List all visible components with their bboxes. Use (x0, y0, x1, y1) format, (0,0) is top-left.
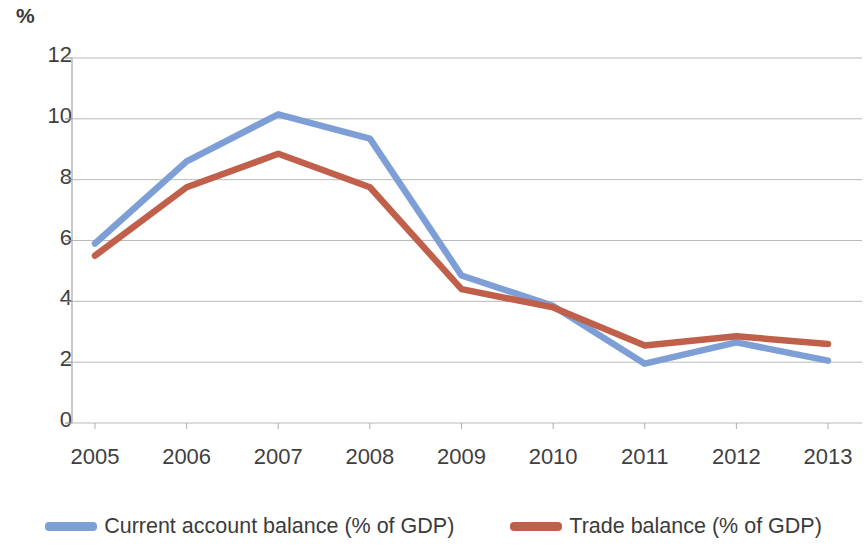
legend-label: Current account balance (% of GDP) (104, 514, 454, 539)
x-tick-label: 2008 (325, 444, 415, 470)
legend-swatch-icon (45, 522, 97, 531)
legend-label: Trade balance (% of GDP) (569, 514, 822, 539)
x-tick-label: 2013 (783, 444, 867, 470)
x-tick-label: 2006 (142, 444, 232, 470)
chart-legend: Current account balance (% of GDP)Trade … (0, 506, 867, 546)
y-axis-tick-marks (65, 58, 72, 423)
x-tick-label: 2005 (50, 444, 140, 470)
x-tick-label: 2009 (417, 444, 507, 470)
series-line (95, 154, 828, 346)
x-axis-tick-marks (95, 423, 828, 429)
x-tick-label: 2012 (691, 444, 781, 470)
x-tick-label: 2007 (233, 444, 323, 470)
series-lines (95, 114, 828, 363)
x-tick-label: 2011 (600, 444, 690, 470)
legend-item[interactable]: Trade balance (% of GDP) (510, 514, 822, 539)
legend-item[interactable]: Current account balance (% of GDP) (45, 514, 454, 539)
chart-container: % 024681012 2005200620072008200920102011… (0, 0, 867, 546)
gridlines (72, 58, 862, 423)
x-tick-label: 2010 (508, 444, 598, 470)
legend-swatch-icon (510, 522, 562, 531)
series-line (95, 114, 828, 363)
